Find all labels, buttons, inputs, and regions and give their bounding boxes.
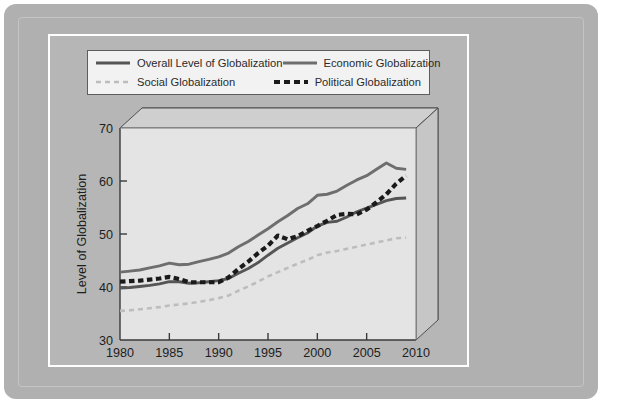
plot-area: 30405060701980198519901995200020052010 L… <box>48 34 469 367</box>
y-tick-label: 60 <box>99 175 113 189</box>
x-tick-label: 2005 <box>353 346 381 360</box>
screenshot-root: Source: Based on data from the 2012 KOF … <box>0 0 625 414</box>
y-tick-label: 50 <box>99 228 113 242</box>
x-tick-label: 1985 <box>155 346 183 360</box>
y-axis-title: Level of Globalization <box>75 174 89 294</box>
y-tick-label: 70 <box>99 122 113 136</box>
plot-svg: 30405060701980198519901995200020052010 L… <box>48 34 469 367</box>
plot-right-face <box>416 108 438 340</box>
plot-front-face <box>120 128 416 340</box>
x-tick-label: 1980 <box>106 346 134 360</box>
y-tick-label: 40 <box>99 281 113 295</box>
x-tick-label: 1995 <box>254 346 282 360</box>
x-tick-label: 1990 <box>205 346 233 360</box>
x-tick-label: 2000 <box>303 346 331 360</box>
x-tick-label: 2010 <box>402 346 430 360</box>
plot-top-face <box>120 108 438 128</box>
